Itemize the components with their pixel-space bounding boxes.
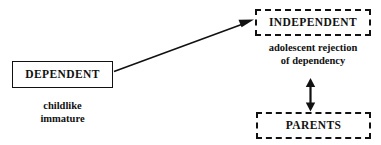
node-independent-caption: adolescent rejection of dependency xyxy=(249,41,377,67)
diagram-canvas: DEPENDENT childlike immature INDEPENDENT… xyxy=(0,0,381,145)
arrow-independent-parents-double xyxy=(306,78,315,112)
node-independent-label: INDEPENDENT xyxy=(269,17,357,29)
node-dependent-caption-line-1: childlike xyxy=(12,99,113,112)
node-parents-label: PARENTS xyxy=(286,120,342,132)
node-dependent[interactable]: DEPENDENT xyxy=(12,61,113,88)
node-independent-caption-line-2: of dependency xyxy=(249,54,377,67)
node-independent[interactable]: INDEPENDENT xyxy=(255,9,371,36)
node-dependent-label: DEPENDENT xyxy=(25,69,100,81)
node-dependent-caption-line-2: immature xyxy=(12,112,113,125)
node-dependent-caption: childlike immature xyxy=(12,99,113,125)
node-parents[interactable]: PARENTS xyxy=(256,112,371,139)
node-independent-caption-line-1: adolescent rejection xyxy=(249,41,377,54)
arrow-dependent-to-independent xyxy=(114,20,254,72)
